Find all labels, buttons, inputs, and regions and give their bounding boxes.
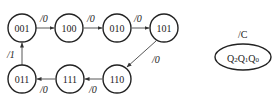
state-label: 011: [15, 74, 30, 85]
state-101: 101: [150, 14, 178, 42]
legend-output-label: /C: [238, 29, 248, 40]
state-label: 110: [110, 74, 125, 85]
state-011: 011: [8, 65, 36, 93]
edge-label-011-001: /1: [6, 49, 15, 60]
state-111: 111: [56, 65, 84, 93]
state-001: 001: [8, 14, 36, 42]
edge-label-111-011: /0: [39, 84, 48, 95]
edge-label-110-111: /0: [88, 84, 97, 95]
state-010: 010: [103, 14, 131, 42]
legend-state-label: Q2Q1Q0: [227, 53, 260, 65]
state-label: 111: [63, 74, 77, 85]
edge-label-101-110: /0: [151, 54, 160, 65]
state-label: 001: [15, 23, 30, 34]
state-100: 100: [55, 14, 83, 42]
state-110: 110: [103, 65, 131, 93]
state-label: 101: [157, 23, 172, 34]
state-label: 010: [110, 23, 125, 34]
edge-label-001-100: /0: [39, 13, 48, 24]
state-label: 100: [62, 23, 77, 34]
state-diagram-svg: /0 /0 /0 /0 /0 /0 /1 001 100 010 101 110…: [0, 0, 278, 104]
edge-label-100-010: /0: [86, 13, 95, 24]
edge-label-010-101: /0: [133, 13, 142, 24]
legend: /C Q2Q1Q0: [215, 29, 271, 70]
state-diagram: /0 /0 /0 /0 /0 /0 /1 001 100 010 101 110…: [0, 0, 278, 104]
